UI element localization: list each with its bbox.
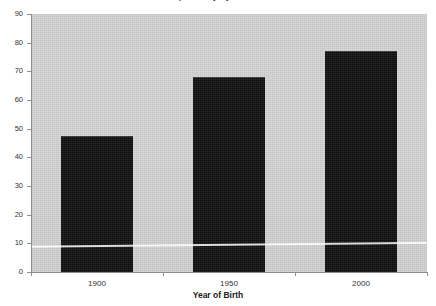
x-axis-title: Year of Birth	[0, 290, 436, 300]
y-tick-label: 20	[15, 210, 23, 219]
y-tick-mark	[27, 157, 31, 158]
x-tick-mark	[427, 272, 428, 276]
y-tick-mark	[27, 215, 31, 216]
chart-title-text: Life Expectancy by Year of Birth	[149, 0, 286, 1]
y-tick-label: 50	[15, 124, 23, 133]
bar-1950	[193, 77, 265, 272]
x-tick-mark	[295, 272, 296, 276]
bar-top-edge	[325, 51, 397, 52]
x-axis-line	[31, 272, 428, 273]
y-tick-label: 60	[15, 95, 23, 104]
y-tick-mark	[27, 129, 31, 130]
y-tick-mark	[27, 14, 31, 15]
y-tick-label: 30	[15, 181, 23, 190]
chart-screenshot: Life Expectancy by Year of Birth 0102030…	[0, 0, 436, 306]
y-tick-label: 90	[15, 9, 23, 18]
bar-top-edge	[193, 77, 265, 78]
y-tick-mark	[27, 243, 31, 244]
y-tick-mark	[27, 100, 31, 101]
bar-texture	[325, 51, 397, 272]
y-tick-mark	[27, 186, 31, 187]
y-tick-label: 80	[15, 38, 23, 47]
bar-texture	[61, 136, 133, 272]
bar-1900	[61, 136, 133, 272]
plot-area	[31, 14, 427, 272]
x-tick-label-2000: 2000	[352, 279, 370, 288]
x-tick-mark	[31, 272, 32, 276]
bar-texture	[193, 77, 265, 272]
bar-top-edge	[61, 136, 133, 137]
y-tick-label: 0	[19, 267, 23, 276]
y-tick-mark	[27, 43, 31, 44]
x-tick-label-1900: 1900	[88, 279, 106, 288]
y-tick-label: 40	[15, 152, 23, 161]
y-tick-label: 10	[15, 238, 23, 247]
x-tick-mark	[163, 272, 164, 276]
bar-2000	[325, 51, 397, 272]
y-tick-mark	[27, 71, 31, 72]
chart-title-cropped: Life Expectancy by Year of Birth	[0, 0, 436, 4]
y-axis-line	[31, 14, 32, 273]
x-tick-label-1950: 1950	[220, 279, 238, 288]
y-tick-label: 70	[15, 66, 23, 75]
